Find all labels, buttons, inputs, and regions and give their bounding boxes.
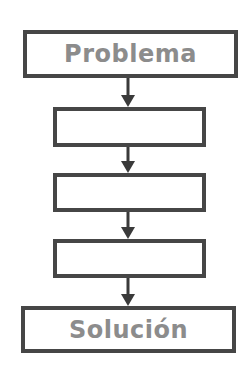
solution-box: Solución xyxy=(21,306,236,353)
arrow-down-icon xyxy=(121,212,135,239)
step-box-3 xyxy=(53,239,206,278)
problem-label: Problema xyxy=(64,42,197,66)
arrow-down-icon xyxy=(121,278,135,306)
arrow-down-icon xyxy=(121,78,135,107)
solution-label: Solución xyxy=(69,318,188,342)
problem-box: Problema xyxy=(23,30,238,78)
arrow-down-icon xyxy=(121,147,135,173)
step-box-1 xyxy=(53,107,206,147)
step-box-2 xyxy=(53,173,206,212)
